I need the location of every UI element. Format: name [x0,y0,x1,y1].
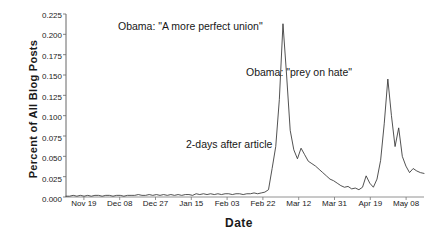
x-tick-label: Mar 12 [286,199,311,208]
annotation-prey-on-hate: Obama: "prey on hate" [246,66,352,78]
x-tick-label: Dec 08 [107,199,132,208]
annotation-two-days-after-article: 2-days after article [186,138,272,150]
x-tick-label: Jan 15 [179,199,203,208]
x-tick-label: Nov 19 [71,199,96,208]
x-tick-label: Dec 27 [143,199,168,208]
x-tick-label: May 08 [393,199,419,208]
x-tick-label: Feb 03 [215,199,240,208]
chart-figure: Percent of All Blog Posts 0.225 0.200 0.… [0,0,432,239]
annotation-more-perfect-union: Obama: "A more perfect union" [118,20,263,32]
x-tick-label: Apr 19 [359,199,383,208]
x-tick-label: Mar 31 [322,199,347,208]
x-tick-label: Feb 22 [250,199,275,208]
data-series-line [66,24,424,196]
x-axis-title: Date [66,216,412,230]
